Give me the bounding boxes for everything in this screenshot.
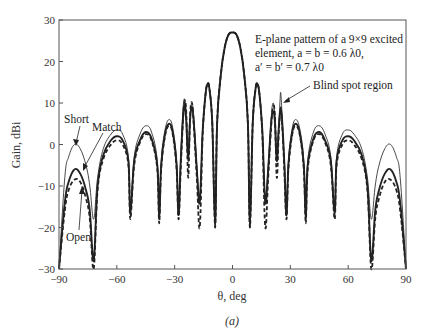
arrowhead-icon — [283, 97, 290, 103]
annotation-line-3: a′ = b′ = 0.7 λ0 — [255, 61, 324, 73]
short-label-group: Short — [64, 113, 90, 146]
x-tick-label: −60 — [108, 273, 126, 285]
x-tick-label: −30 — [166, 273, 184, 285]
x-tick-label: 60 — [343, 273, 355, 285]
series-match-line — [59, 32, 406, 269]
annotation-line-1: E-plane pattern of a 9×9 excited — [255, 33, 403, 46]
y-tick-label: −20 — [38, 222, 56, 234]
y-tick-label: 30 — [44, 14, 56, 26]
series-short-line — [59, 32, 406, 269]
label-open: Open — [66, 231, 91, 244]
y-tick-label: −30 — [38, 263, 56, 275]
gain-pattern-chart: −90−60−300306090−30−20−100102030 Gain, d… — [0, 0, 430, 336]
y-tick-label: 10 — [44, 97, 56, 109]
x-tick-label: 30 — [285, 273, 297, 285]
y-axis-label: Gain, dBi — [9, 121, 23, 168]
y-tick-label: 0 — [50, 139, 56, 151]
label-match: Match — [92, 121, 122, 133]
annotation-line-2: element, a = b = 0.6 λ0, — [255, 47, 364, 60]
x-tick-label: 90 — [401, 273, 413, 285]
y-tick-label: −10 — [38, 180, 56, 192]
figure-caption: (a) — [225, 314, 239, 328]
y-tick-label: 20 — [44, 56, 56, 68]
x-axis-label: θ, deg — [217, 289, 246, 303]
blind-spot-callout: Blind spot region — [283, 79, 393, 103]
title-annotation: E-plane pattern of a 9×9 excited element… — [255, 33, 403, 73]
x-tick-label: 0 — [230, 273, 236, 285]
open-arrow — [79, 190, 82, 230]
label-short: Short — [64, 113, 90, 125]
series-open-line — [59, 32, 406, 269]
plot-curves — [59, 32, 406, 269]
blind-spot-label: Blind spot region — [313, 79, 393, 92]
